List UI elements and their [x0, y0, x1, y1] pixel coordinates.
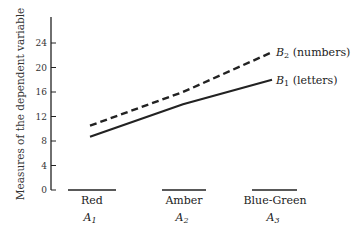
x-category-label: Blue-Green — [243, 194, 306, 207]
y-tick-label: 8 — [41, 136, 47, 146]
y-tick-label: 16 — [36, 87, 48, 97]
chart: Measures of the dependent variable 0 4 8… — [0, 0, 360, 236]
x-category-symbol: A2 — [174, 211, 188, 225]
y-tick-label: 20 — [36, 63, 48, 73]
y-tick-label: 0 — [41, 185, 47, 195]
y-tick-label: 12 — [36, 112, 47, 122]
y-axis-label: Measures of the dependent variable — [14, 8, 26, 200]
series-b1-line — [90, 80, 272, 137]
y-tick-label: 24 — [36, 38, 48, 48]
y-ticks: 0 4 8 12 16 20 24 — [36, 38, 56, 195]
x-category-symbol: A1 — [82, 211, 96, 225]
y-tick-label: 4 — [41, 161, 47, 171]
series-b2-line — [90, 52, 272, 126]
x-category-symbol: A3 — [265, 211, 279, 225]
x-category-label: Amber — [164, 194, 203, 207]
x-category-label: Red — [81, 194, 103, 207]
series-b2-label: B2 (numbers) — [275, 46, 350, 60]
series-b1-label: B1 (letters) — [275, 74, 338, 88]
